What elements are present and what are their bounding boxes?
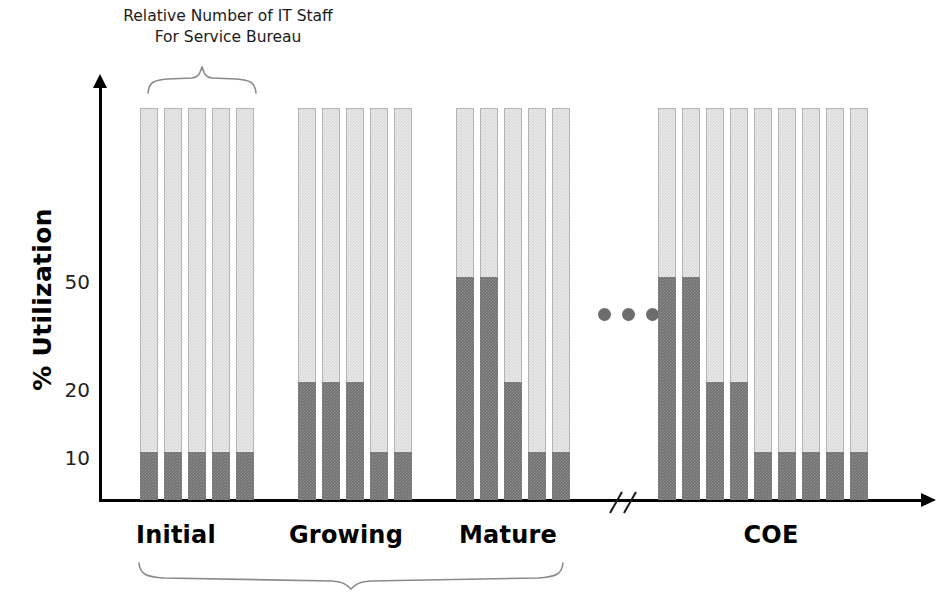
group-label-initial: Initial	[116, 521, 236, 549]
bar-initial-3	[188, 108, 206, 500]
bar-fill-utilized	[322, 382, 340, 500]
bar-fill-utilized	[528, 452, 546, 500]
bar-fill-utilized	[504, 382, 522, 500]
bar-fill-utilized	[802, 452, 820, 500]
group-label-mature: Mature	[440, 521, 576, 549]
bar-fill-utilized	[456, 277, 474, 500]
bar-growing-1	[298, 108, 316, 500]
bar-fill-utilized	[370, 452, 388, 500]
bar-fill-utilized	[394, 452, 412, 500]
bar-fill-utilized	[754, 452, 772, 500]
bar-mature-2	[480, 108, 498, 500]
bar-growing-4	[370, 108, 388, 500]
bar-mature-3	[504, 108, 522, 500]
bar-fill-utilized	[140, 452, 158, 500]
bar-mature-5	[552, 108, 570, 500]
bar-initial-1	[140, 108, 158, 500]
bar-coe-3	[706, 108, 724, 500]
bar-fill-utilized	[236, 452, 254, 500]
bar-coe-5	[754, 108, 772, 500]
bar-growing-2	[322, 108, 340, 500]
bar-coe-2	[682, 108, 700, 500]
bar-coe-7	[802, 108, 820, 500]
bar-initial-5	[236, 108, 254, 500]
bars-layer	[0, 0, 949, 597]
bar-initial-2	[164, 108, 182, 500]
bar-fill-utilized	[850, 452, 868, 500]
bar-fill-utilized	[212, 452, 230, 500]
bar-initial-4	[212, 108, 230, 500]
bar-coe-8	[826, 108, 844, 500]
bar-growing-3	[346, 108, 364, 500]
bar-fill-utilized	[298, 382, 316, 500]
bar-mature-1	[456, 108, 474, 500]
bar-fill-utilized	[658, 277, 676, 500]
bar-coe-4	[730, 108, 748, 500]
bar-fill-utilized	[480, 277, 498, 500]
bar-fill-utilized	[346, 382, 364, 500]
bar-fill-utilized	[706, 382, 724, 500]
bar-fill-utilized	[826, 452, 844, 500]
bar-fill-utilized	[730, 382, 748, 500]
bar-fill-utilized	[188, 452, 206, 500]
bar-growing-5	[394, 108, 412, 500]
bar-fill-utilized	[552, 452, 570, 500]
bar-coe-1	[658, 108, 676, 500]
bar-fill-utilized	[778, 452, 796, 500]
group-label-growing: Growing	[276, 521, 416, 549]
maturity-progression-brace	[136, 560, 566, 590]
bar-coe-9	[850, 108, 868, 500]
bar-fill-utilized	[164, 452, 182, 500]
bar-mature-4	[528, 108, 546, 500]
bar-coe-6	[778, 108, 796, 500]
bar-fill-utilized	[682, 277, 700, 500]
group-label-coe: COE	[716, 521, 826, 549]
chart-canvas: Relative Number of IT Staff For Service …	[0, 0, 949, 597]
